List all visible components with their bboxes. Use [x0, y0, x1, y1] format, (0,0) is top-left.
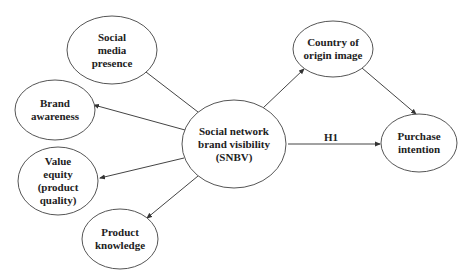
edge-snbv-to-ve [100, 158, 184, 178]
node-label-line: Product [95, 226, 145, 239]
node-pi: Purchaseintention [381, 114, 457, 172]
node-label-line: Brand [31, 97, 79, 110]
node-label-line: knowledge [95, 239, 145, 252]
node-label-line: (SNBV) [198, 151, 270, 164]
node-label-line: Purchase [397, 130, 440, 143]
node-snbv: Social networkbrand visibility(SNBV) [182, 100, 286, 188]
node-ba: Brandawareness [15, 80, 95, 140]
node-label-line: awareness [31, 110, 79, 123]
node-label-line: equity [38, 168, 79, 181]
node-label-line: Value [38, 155, 79, 168]
node-label-line: presence [92, 57, 133, 70]
node-pk: Productknowledge [82, 209, 158, 269]
node-label-line: media [92, 44, 133, 57]
node-label-line: Social [92, 31, 133, 44]
node-label-line: origin image [304, 49, 363, 62]
node-label-line: Country of [304, 36, 363, 49]
node-label-line: Social network [198, 125, 270, 138]
node-ve: Valueequity(productquality) [18, 147, 98, 215]
node-label-line: (product [38, 181, 79, 194]
node-label-line: brand visibility [198, 138, 270, 151]
node-smp: Socialmediapresence [67, 16, 157, 84]
edge-label-h1: H1 [324, 131, 338, 143]
node-label-line: quality) [38, 194, 79, 207]
node-label-line: intention [397, 143, 440, 156]
edge-snbv-to-ba [94, 105, 185, 130]
node-coo: Country oforigin image [293, 21, 373, 77]
